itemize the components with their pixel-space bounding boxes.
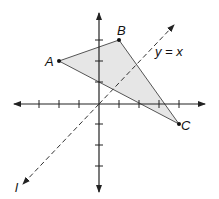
label-l: l: [15, 180, 19, 195]
label-b: B: [117, 23, 126, 38]
label-y-equals-x: y = x: [154, 44, 183, 59]
y-axis: [95, 13, 103, 192]
label-a: A: [44, 54, 54, 69]
coordinate-plane: A B C y = x l: [0, 0, 219, 199]
x-axis: [14, 100, 205, 108]
label-c: C: [181, 118, 191, 133]
point-b: [117, 38, 121, 42]
point-a: [57, 59, 61, 63]
